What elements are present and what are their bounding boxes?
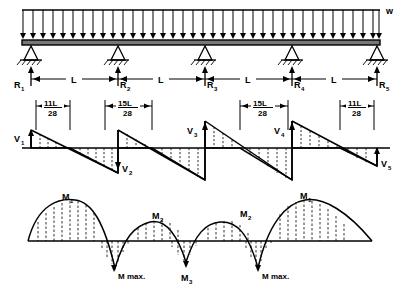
moment-negative-label-2-name: M — [181, 273, 189, 283]
moment-label-3-name: M — [240, 209, 248, 219]
moment-negative-label-1: M max. — [111, 265, 145, 281]
moment-negative-label-2: M 3 — [181, 261, 193, 285]
shear-dimension-3-numerator: 15L — [253, 99, 267, 108]
shear-curve-outline-1 — [31, 130, 118, 173]
shear-dimension-4-denominator: 28 — [352, 109, 361, 118]
shear-label-1: V 1 — [14, 134, 25, 146]
beam — [22, 40, 380, 45]
moment-label-3: M 2 — [240, 209, 252, 221]
shear-dimension-2-denominator: 28 — [123, 109, 132, 118]
moment-max-label-left: M max. — [118, 272, 145, 281]
support-3 — [191, 46, 216, 65]
distributed-load-arrows — [23, 10, 379, 35]
shear-label-1-name: V — [14, 134, 20, 144]
reaction-label-5-sub: 5 — [386, 86, 390, 92]
shear-label-4-name: V — [274, 126, 280, 136]
shear-curve-outline-4 — [292, 121, 377, 166]
distributed-load-arrowheads — [20, 33, 382, 39]
shear-label-3: V 3 — [187, 126, 198, 138]
shear-dimension-1-numerator: 11L — [44, 99, 57, 108]
shear-label-5-sub: 5 — [388, 165, 392, 171]
moment-label-2-sub: 2 — [160, 217, 164, 223]
shear-dimension-1: 11L 28 — [36, 99, 70, 130]
reaction-label-2: R 2 — [120, 80, 131, 92]
span-label-2: L — [158, 75, 164, 85]
shear-diagram: 11L 28 15L 28 15L 28 — [14, 99, 392, 180]
moment-max-label-right: M max. — [262, 272, 289, 281]
moment-label-1-sub: 1 — [70, 198, 74, 204]
support-4 — [278, 46, 303, 65]
support-5 — [363, 46, 388, 65]
shear-dimension-4: 11L 28 — [340, 99, 374, 130]
moment-label-1-name: M — [62, 192, 70, 202]
shear-label-1-sub: 1 — [21, 140, 25, 146]
beam-analysis-figure: w — [0, 0, 402, 304]
moment-hatching-positive — [38, 200, 344, 241]
shear-dimension-3: 15L 28 — [240, 99, 288, 130]
reaction-label-5: R 5 — [379, 80, 390, 92]
shear-dimension-3-denominator: 28 — [258, 109, 267, 118]
shear-label-2-name: V — [122, 164, 128, 174]
loading-diagram: w — [14, 6, 394, 92]
shear-label-4-sub: 4 — [281, 132, 285, 138]
shear-label-5: V 5 — [381, 159, 392, 171]
span-label-3: L — [245, 75, 251, 85]
load-label: w — [385, 6, 394, 16]
reaction-label-3-sub: 3 — [214, 86, 218, 92]
moment-negative-label-2-sub: 3 — [189, 279, 193, 285]
shear-dimension-2-numerator: 15L — [118, 99, 132, 108]
span-label-4: L — [331, 75, 337, 85]
shear-label-5-name: V — [381, 159, 387, 169]
reaction-label-5-name: R — [379, 80, 386, 90]
shear-label-2: V 2 — [122, 164, 133, 176]
shear-dimension-4-numerator: 11L — [348, 99, 361, 108]
span-label-1: L — [71, 75, 77, 85]
shear-label-2-sub: 2 — [129, 170, 133, 176]
support-1 — [17, 46, 42, 65]
reaction-label-4-sub: 4 — [301, 86, 305, 92]
shear-label-3-sub: 3 — [194, 132, 198, 138]
shear-dimension-2: 15L 28 — [105, 99, 152, 130]
reaction-label-1-name: R — [14, 80, 21, 90]
moment-negative-label-3: M max. — [255, 265, 289, 281]
moment-label-2-name: M — [152, 211, 160, 221]
moment-label-1: M 1 — [62, 192, 74, 204]
reaction-label-2-sub: 2 — [127, 86, 131, 92]
reaction-label-4: R 4 — [294, 80, 305, 92]
support-2 — [104, 46, 129, 65]
shear-label-3-name: V — [187, 126, 193, 136]
reaction-label-3: R 3 — [207, 80, 218, 92]
reaction-label-1: R 1 — [14, 80, 25, 92]
moment-diagram: M 1 M 2 M 2 M 1 M max. M 3 M max. — [28, 191, 372, 285]
shear-label-4: V 4 — [274, 126, 285, 138]
reaction-label-1-sub: 1 — [21, 86, 25, 92]
shear-arrows — [28, 122, 380, 170]
moment-label-4-name: M — [300, 191, 308, 201]
moment-label-3-sub: 2 — [248, 215, 252, 221]
shear-dimension-1-denominator: 28 — [48, 109, 57, 118]
